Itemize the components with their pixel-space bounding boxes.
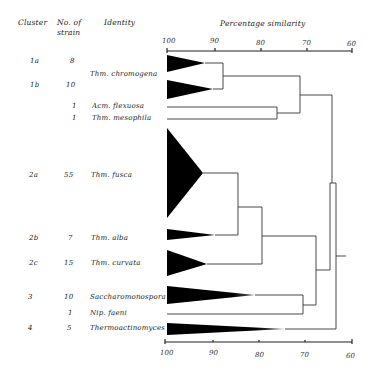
bottom-tick-100: 100 [160, 349, 174, 357]
bottom-axis [165, 339, 352, 344]
top-tick-70: 70 [302, 39, 311, 47]
bottom-tick-80: 80 [255, 351, 264, 359]
bottom-tick-90: 90 [209, 349, 218, 357]
bottom-tick-70: 70 [300, 351, 309, 359]
triangle-3 [167, 286, 255, 304]
bottom-tick-60: 60 [346, 352, 355, 360]
triangle-4 [167, 323, 285, 335]
triangle-1b [167, 80, 213, 99]
top-axis-labels: 100 90 80 70 60 [162, 37, 356, 48]
triangle-2b [167, 229, 215, 240]
triangle-2c [167, 250, 207, 276]
bottom-axis-labels: 100 90 80 70 60 [160, 349, 355, 360]
triangle-2a [167, 128, 203, 218]
top-tick-90: 90 [210, 37, 219, 45]
top-axis [167, 48, 352, 53]
top-tick-60: 60 [347, 40, 356, 48]
triangle-1a [167, 55, 205, 72]
top-tick-100: 100 [162, 37, 176, 45]
dendrogram: 100 90 80 70 60 [0, 0, 374, 376]
top-tick-80: 80 [256, 39, 265, 47]
